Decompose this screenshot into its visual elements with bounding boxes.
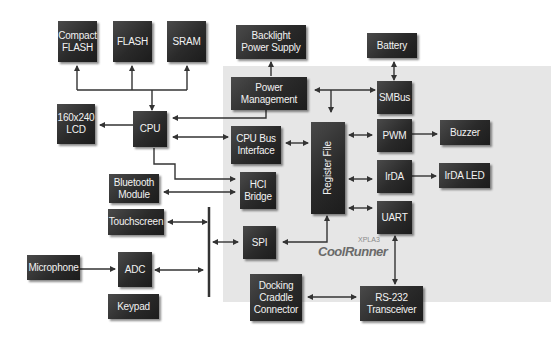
battery-block: Battery (367, 33, 417, 58)
compact-flash-block: Compact FLASH (58, 21, 97, 62)
sram-block: SRAM (167, 21, 206, 62)
hci-bridge-block: HCI Bridge (240, 172, 276, 209)
lcd-block: 160x240 LCD (57, 104, 95, 144)
keypad-block: Keypad (108, 294, 159, 319)
cpu-bus-interface-block: CPU Bus Interface (231, 126, 281, 164)
pwm-block: PWM (377, 119, 412, 152)
cpu-block: CPU (133, 111, 167, 147)
uart-block: UART (377, 201, 412, 234)
irda-led-block: IrDA LED (439, 163, 490, 188)
docking-cradle-connector-block: Docking Craddle Connector (250, 274, 302, 321)
spi-block: SPI (243, 226, 276, 259)
microphone-block: Microphone (27, 255, 80, 280)
register-file-block: Register File (311, 122, 345, 214)
coolrunner-logo: CoolRunner XPLA3 (318, 244, 387, 259)
bluetooth-module-block: Bluetooth Module (109, 174, 159, 203)
power-management-block: Power Management (231, 77, 307, 110)
smbus-block: SMBus (377, 81, 412, 114)
rs232-transceiver-block: RS-232 Transceiver (360, 286, 423, 321)
irda-block: IrDA (377, 160, 412, 193)
backlight-power-supply-block: Backlight Power Supply (236, 25, 306, 59)
flash-block: FLASH (113, 21, 152, 62)
adc-block: ADC (118, 252, 152, 287)
touchscreen-block: Touchscreen (108, 209, 164, 235)
buzzer-block: Buzzer (440, 120, 490, 145)
